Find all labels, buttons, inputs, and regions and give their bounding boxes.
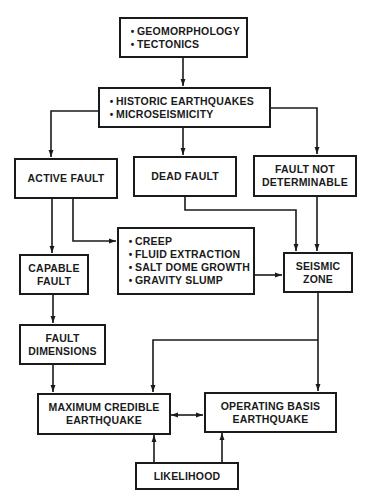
node-inputs: GEOMORPHOLOGY TECTONICS [119,17,248,58]
node-line: DETERMINABLE [262,176,348,189]
node-line: FAULT [45,332,79,345]
node-line: EARTHQUAKE [232,413,308,426]
node-line: GRAVITY SLUMP [126,274,223,287]
node-line: FAULT [37,275,71,288]
node-dead-fault: DEAD FAULT [133,156,237,197]
node-line: EARTHQUAKE [66,414,142,427]
node-line: TECTONICS [128,38,199,51]
node-line: MAXIMUM CREDIBLE [48,401,159,414]
node-line: DEAD FAULT [151,170,219,183]
node-seismic-zone: SEISMIC ZONE [283,252,353,293]
node-fault-dimensions: FAULT DIMENSIONS [19,324,106,365]
node-line: SALT DOME GROWTH [126,261,250,274]
node-operating-basis-earthquake: OPERATING BASIS EARTHQUAKE [204,392,337,433]
edge-active-to-non-tectonic [73,198,116,241]
edge-seismicity-to-fault-not-determinable [270,108,317,154]
node-fault-not-determinable: FAULT NOT DETERMINABLE [253,155,357,197]
node-active-fault: ACTIVE FAULT [14,158,118,199]
node-line: MICROSEISMICITY [107,108,214,121]
node-line: CAPABLE [28,262,79,275]
node-maximum-credible-earthquake: MAXIMUM CREDIBLE EARTHQUAKE [37,393,171,435]
node-line: ZONE [303,273,333,286]
node-capable-fault: CAPABLE FAULT [19,254,89,295]
node-line: CREEP [126,235,172,248]
node-likelihood: LIKELIHOOD [135,462,239,490]
edge-seismic-zone-to-mce [153,340,318,392]
node-line: SEISMIC [296,260,341,273]
node-line: GEOMORPHOLOGY [128,25,240,38]
node-line: ACTIVE FAULT [28,172,105,185]
node-line: DIMENSIONS [28,345,97,358]
node-line: FLUID EXTRACTION [126,248,240,261]
node-seismicity: HISTORIC EARTHQUAKES MICROSEISMICITY [98,87,271,128]
node-line: LIKELIHOOD [154,470,221,483]
node-non-tectonic: CREEP FLUID EXTRACTION SALT DOME GROWTH … [117,227,255,295]
edge-seismicity-to-active-fault [51,111,98,157]
node-line: HISTORIC EARTHQUAKES [107,95,254,108]
node-line: FAULT NOT [275,163,335,176]
node-line: OPERATING BASIS [221,400,321,413]
